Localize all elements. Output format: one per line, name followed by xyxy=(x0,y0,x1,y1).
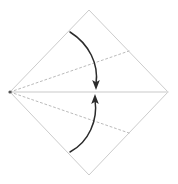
origami-svg-canvas xyxy=(0,0,178,184)
origami-diagram xyxy=(0,0,178,184)
left-vertex-point xyxy=(8,90,11,93)
